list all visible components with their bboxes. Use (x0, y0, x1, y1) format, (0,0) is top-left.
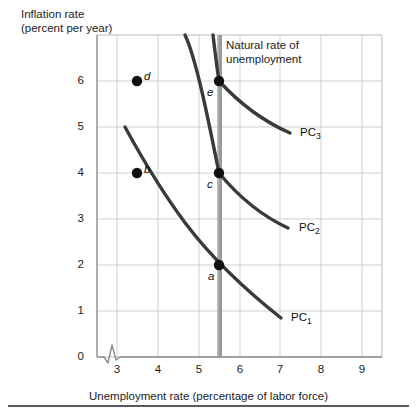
curve-label-pc3: PC3 (300, 126, 321, 141)
point-b (132, 168, 142, 178)
x-tick-6: 6 (229, 363, 251, 375)
x-tick-8: 8 (310, 363, 332, 375)
point-d (132, 76, 142, 86)
curve-label-pc1: PC1 (291, 311, 312, 326)
point-label-e: e (207, 86, 213, 98)
curve-label-pc1-text: PC (291, 311, 307, 323)
x-tick-5: 5 (188, 363, 210, 375)
x-tick-3: 3 (106, 363, 128, 375)
x-tick-7: 7 (269, 363, 291, 375)
curve-label-pc3-sub: 3 (316, 131, 321, 141)
natural-rate-annotation: Natural rate of unemployment (226, 38, 301, 66)
y-tick-5: 5 (62, 120, 84, 132)
x-tick-9: 9 (351, 363, 373, 375)
y-tick-3: 3 (62, 212, 84, 224)
y-tick-4: 4 (62, 166, 84, 178)
bottom-divider (8, 405, 409, 407)
point-c (214, 168, 224, 178)
y-tick-0: 0 (62, 350, 84, 362)
x-tick-4: 4 (147, 363, 169, 375)
y-tick-2: 2 (62, 258, 84, 270)
point-a (214, 260, 224, 270)
point-label-a: a (208, 270, 214, 282)
curve-pc1 (125, 127, 281, 318)
point-label-b: b (144, 163, 150, 175)
y-tick-1: 1 (62, 304, 84, 316)
y-tick-6: 6 (62, 74, 84, 86)
x-axis-title: Unemployment rate (percentage of labor f… (0, 389, 417, 403)
point-label-c: c (207, 178, 213, 190)
point-label-d: d (144, 70, 150, 82)
curve-label-pc3-text: PC (300, 126, 316, 138)
curve-label-pc2: PC2 (299, 221, 320, 236)
phillips-curve-figure: Inflation rate (percent per year) (0, 0, 417, 414)
curve-label-pc2-sub: 2 (315, 226, 320, 236)
curve-label-pc2-text: PC (299, 221, 315, 233)
point-e (214, 76, 224, 86)
curve-label-pc1-sub: 1 (307, 316, 312, 326)
